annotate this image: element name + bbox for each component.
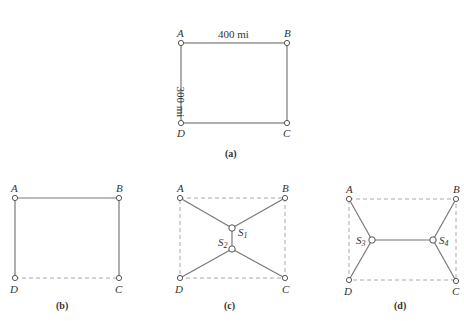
label-b: B [116,182,123,194]
edge-b-s4 [433,199,456,240]
node-b [284,40,289,45]
height-label: 300 mi [175,87,187,118]
caption-b: (b) [56,300,68,312]
node-c [284,120,289,125]
label-d: D [343,285,352,297]
node-a [178,40,183,45]
node-a [346,196,351,201]
node-d [177,275,182,280]
edge-d-s2 [180,249,232,278]
diagram-a: A B D C 400 mi 300 mi (a) [175,27,291,160]
node-s4 [430,237,436,243]
label-a: A [10,182,18,194]
label-s4: S4 [439,234,449,248]
node-c [116,275,121,280]
node-a [12,195,17,200]
label-b: B [282,182,289,194]
caption-a: (a) [225,148,237,160]
node-b [116,195,121,200]
width-label: 400 mi [218,28,249,40]
node-d [12,275,17,280]
node-d [178,120,183,125]
label-a: A [176,182,184,194]
node-d [346,277,351,282]
label-s2: S2 [218,236,228,250]
label-c: C [452,285,460,297]
label-a: A [345,183,353,195]
diagram-c: A B D C S1 S2 (c) [174,182,290,312]
label-c: C [283,127,291,139]
edge-b-s1 [232,198,285,228]
diagram-d: A B D C S3 S4 (d) [343,183,460,312]
label-s3: S3 [356,234,366,248]
node-s3 [369,237,375,243]
label-c: C [282,283,290,295]
label-d: D [176,127,185,139]
edge-a-s1 [180,198,232,228]
node-b [282,195,287,200]
edge-d-s3 [349,240,372,280]
rectangle-abcd [181,43,287,123]
label-d: D [174,283,183,295]
node-a [177,195,182,200]
edge-c-s2 [232,249,285,278]
caption-d: (d) [394,300,406,312]
node-c [453,278,458,283]
label-b: B [453,183,460,195]
diagram-b: A B D C (b) [9,182,123,312]
caption-c: (c) [224,300,235,312]
node-s1 [229,225,235,231]
node-b [453,196,458,201]
network-diagrams: A B D C 400 mi 300 mi (a) A B D C (b) A [0,0,464,321]
label-s1: S1 [238,226,248,240]
label-c: C [115,283,123,295]
label-a: A [176,27,184,39]
label-d: D [9,283,18,295]
path-dabc [15,198,119,278]
label-b: B [284,27,291,39]
node-s2 [229,246,235,252]
node-c [282,275,287,280]
